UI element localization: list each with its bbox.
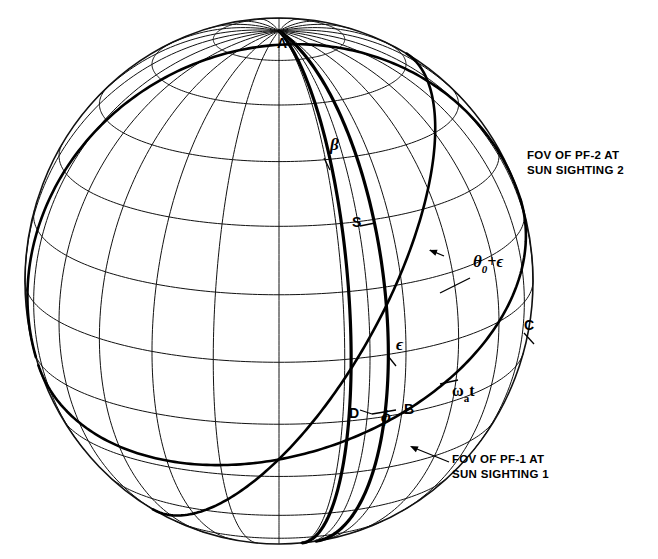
label-point-c: C — [524, 317, 534, 333]
equator-arc — [27, 44, 521, 357]
label-point-s: S — [352, 214, 361, 230]
sun-great-circle — [153, 54, 435, 516]
arrowhead-theta0 — [429, 250, 438, 256]
diagram-canvas: ASCDBβθ0+ϵϵωatϕ FOV OF PF-2 ATSUN SIGHTI… — [0, 0, 658, 559]
label-point-d: D — [349, 405, 359, 421]
label-point-b: B — [404, 401, 414, 417]
fov-pf2-arc — [279, 31, 388, 541]
callout-fov-pf2-line1: FOV OF PF-2 AT — [527, 149, 619, 161]
label-epsilon: ϵ — [396, 335, 404, 354]
meridian-7 — [279, 30, 470, 108]
arrowhead-fov-pf1 — [410, 446, 419, 452]
callout-fov-pf1-line1: FOV OF PF-1 AT — [452, 453, 544, 465]
label-phi: ϕ — [381, 407, 391, 426]
fov-pf1-arc — [279, 31, 351, 543]
phi-tick-left — [360, 410, 372, 414]
leader-point-s — [360, 223, 375, 226]
callout-fov-pf1: FOV OF PF-1 ATSUN SIGHTING 1 — [452, 452, 549, 481]
callout-fov-pf2: FOV OF PF-2 ATSUN SIGHTING 2 — [527, 148, 624, 177]
meridian-1 — [279, 31, 345, 543]
label-pole-a: A — [277, 35, 287, 51]
callout-fov-pf1-line2: SUN SIGHTING 1 — [452, 468, 549, 480]
label-theta0-plus-epsilon: θ0+ϵ — [473, 252, 503, 275]
callout-fov-pf2-line2: SUN SIGHTING 2 — [527, 164, 624, 176]
meridian-18 — [25, 31, 279, 281]
sphere-wireframe-svg: ASCDBβθ0+ϵϵωatϕ — [0, 0, 658, 559]
leader-fov-pf1 — [412, 447, 449, 462]
beta-wedge-line — [279, 31, 370, 542]
label-beta: β — [329, 135, 339, 154]
